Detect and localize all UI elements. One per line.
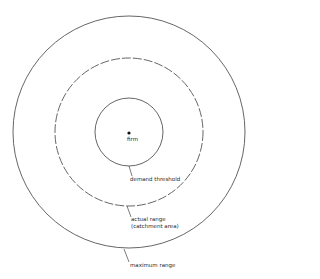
maximum-range-label: maximum range (130, 262, 175, 269)
demand-threshold-leader (129, 166, 132, 176)
maximum-range-leader (124, 249, 129, 262)
firm-dot (127, 131, 130, 134)
catchment-area-label: (catchment area) (131, 223, 179, 230)
firm-label: firm (127, 136, 138, 143)
actual-range-label: actual range (131, 216, 166, 223)
demand-threshold-label: demand threshold (130, 176, 180, 183)
